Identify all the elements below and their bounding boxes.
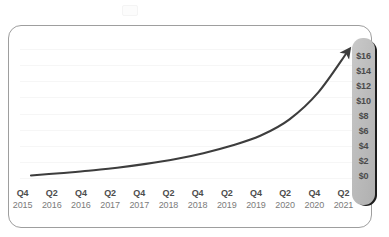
- x-axis-quarter-label: Q2: [271, 188, 300, 199]
- x-axis-quarter-label: Q4: [300, 188, 329, 199]
- x-axis-tick: Q42020: [300, 188, 329, 218]
- chart-screenshot: $16$14$12$10$8$6$4$2$0 Q42015Q22016Q4201…: [0, 0, 389, 237]
- x-axis-year-label: 2016: [66, 199, 95, 211]
- x-axis-quarter-label: Q4: [241, 188, 270, 199]
- gridline: [20, 130, 352, 131]
- x-axis-year-label: 2020: [300, 199, 329, 211]
- x-axis-quarter-label: Q4: [66, 188, 95, 199]
- x-axis-tick: Q42015: [8, 188, 37, 218]
- x-axis-tick: Q42018: [183, 188, 212, 218]
- x-axis-quarter-label: Q4: [183, 188, 212, 199]
- gridline: [20, 114, 352, 115]
- y-axis-tick: $8: [352, 109, 375, 124]
- x-axis-year-label: 2017: [125, 199, 154, 211]
- gridline: [20, 81, 352, 82]
- x-axis-quarter-label: Q2: [329, 188, 358, 199]
- x-axis-tick: Q22018: [154, 188, 183, 218]
- y-axis-tick: $0: [352, 169, 375, 184]
- cropped-top-element: [122, 5, 138, 16]
- y-axis-tick: $10: [352, 94, 375, 109]
- x-axis-tick: Q42016: [66, 188, 95, 218]
- x-axis-year-label: 2019: [212, 199, 241, 211]
- x-axis-year-label: 2018: [183, 199, 212, 211]
- x-axis-year-label: 2017: [96, 199, 125, 211]
- x-axis-tick: Q42017: [125, 188, 154, 218]
- chart-gridlines: [20, 49, 352, 178]
- x-axis-year-label: 2018: [154, 199, 183, 211]
- x-axis-quarter-label: Q2: [212, 188, 241, 199]
- gridline: [20, 178, 352, 179]
- x-axis-quarter-label: Q4: [8, 188, 37, 199]
- x-axis-year-label: 2015: [8, 199, 37, 211]
- x-axis-tick: Q22019: [212, 188, 241, 218]
- x-axis-year-label: 2021: [329, 199, 358, 211]
- x-axis-year-label: 2019: [241, 199, 270, 211]
- x-axis-labels: Q42015Q22016Q42016Q22017Q42017Q22018Q420…: [8, 188, 358, 218]
- x-axis-tick: Q22016: [37, 188, 66, 218]
- y-axis-tick: $2: [352, 154, 375, 169]
- x-axis-quarter-label: Q2: [96, 188, 125, 199]
- x-axis-tick: Q22017: [96, 188, 125, 218]
- gridline: [20, 65, 352, 66]
- x-axis-tick: Q22021: [329, 188, 358, 218]
- gridline: [20, 146, 352, 147]
- gridline: [20, 162, 352, 163]
- y-axis-tick: $14: [352, 64, 375, 79]
- y-axis-tick: $4: [352, 139, 375, 154]
- x-axis-year-label: 2016: [37, 199, 66, 211]
- x-axis-year-label: 2020: [271, 199, 300, 211]
- x-axis-quarter-label: Q2: [37, 188, 66, 199]
- x-axis-tick: Q22020: [271, 188, 300, 218]
- y-axis-pill: $16$14$12$10$8$6$4$2$0: [352, 38, 375, 205]
- x-axis-quarter-label: Q4: [125, 188, 154, 199]
- y-axis-tick: $16: [352, 49, 375, 64]
- gridline: [20, 49, 352, 50]
- y-axis-tick: $6: [352, 124, 375, 139]
- x-axis-quarter-label: Q2: [154, 188, 183, 199]
- gridline: [20, 97, 352, 98]
- x-axis-tick: Q42019: [241, 188, 270, 218]
- y-axis-tick: $12: [352, 79, 375, 94]
